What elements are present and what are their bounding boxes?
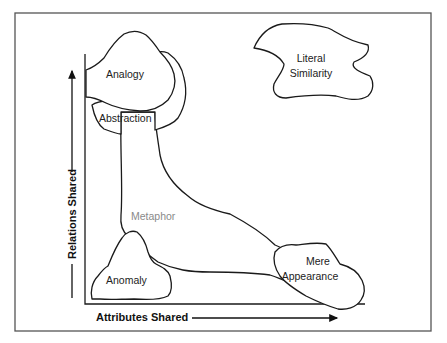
mere-appearance-label-line2: Appearance	[282, 270, 339, 282]
x-axis-label: Attributes Shared	[96, 311, 188, 323]
literal-similarity-label-line2: Similarity	[290, 67, 333, 79]
mere-appearance-label-line1: Mere	[306, 255, 330, 267]
y-axis-label: Relations Shared	[66, 169, 78, 259]
analogy-label: Analogy	[106, 68, 145, 80]
anomaly-label: Anomaly	[106, 274, 148, 286]
similarity-space-diagram: Analogy Abstraction Literal Similarity M…	[0, 0, 447, 343]
literal-similarity-label-line1: Literal	[297, 52, 326, 64]
abstraction-label: Abstraction	[99, 112, 152, 124]
metaphor-label: Metaphor	[131, 210, 176, 222]
